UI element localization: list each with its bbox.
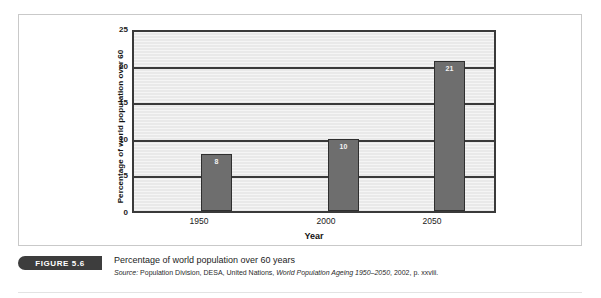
x-axis-title: Year bbox=[132, 231, 496, 241]
source-label: Source: bbox=[114, 269, 138, 276]
y-tick-label-0: 0 bbox=[106, 209, 128, 217]
x-tick-label-2000: 2000 bbox=[296, 217, 356, 226]
y-tick-label-25: 25 bbox=[106, 26, 128, 34]
figure-caption: FIGURE 5.6 Percentage of world populatio… bbox=[18, 256, 582, 286]
source-text-first: Population Division, DESA, United Nation… bbox=[138, 269, 276, 276]
bar-value-2050: 21 bbox=[445, 65, 453, 210]
figure-panel: Percentage of world population over 60 2… bbox=[18, 14, 582, 246]
x-tick-label-2050: 2050 bbox=[402, 217, 462, 226]
bar-1950: 8 bbox=[201, 154, 232, 211]
y-tick-label-20: 20 bbox=[106, 63, 128, 71]
source-publication-title: World Population Ageing 1950–2050 bbox=[276, 269, 390, 276]
y-tick-label-15: 15 bbox=[106, 99, 128, 107]
bar-value-1950: 8 bbox=[214, 158, 218, 210]
caption-title: Percentage of world population over 60 y… bbox=[114, 255, 574, 266]
plot-area: 8 10 21 bbox=[132, 30, 496, 213]
bar-2050: 21 bbox=[434, 61, 465, 211]
bar-value-2000: 10 bbox=[339, 143, 347, 210]
source-text-last: , 2002, p. xxviii. bbox=[390, 269, 438, 276]
caption-source: Source: Population Division, DESA, Unite… bbox=[114, 268, 574, 277]
bar-2000: 10 bbox=[328, 139, 359, 211]
caption-text-block: Percentage of world population over 60 y… bbox=[114, 255, 574, 277]
figure-number-badge: FIGURE 5.6 bbox=[18, 256, 102, 270]
y-axis-ticks: 25 20 15 10 5 0 bbox=[104, 30, 128, 213]
y-tick-label-5: 5 bbox=[106, 172, 128, 180]
bottom-divider bbox=[18, 292, 582, 293]
y-tick-label-10: 10 bbox=[106, 136, 128, 144]
bar-chart: Percentage of world population over 60 2… bbox=[19, 15, 581, 245]
x-tick-label-1950: 1950 bbox=[169, 217, 229, 226]
